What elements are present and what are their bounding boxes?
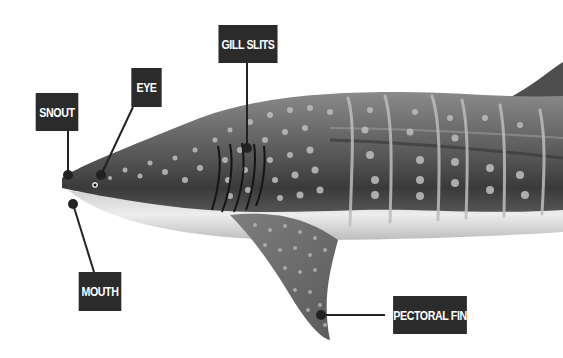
label-eye: EYE	[131, 68, 161, 107]
label-pectoral-fin: PECTORAL FIN	[393, 296, 467, 334]
label-gill-slits: GILL SLITS	[218, 25, 277, 63]
label-mouth: MOUTH	[79, 272, 122, 311]
pectoral-fin-shape	[230, 214, 338, 340]
label-snout: SNOUT	[36, 93, 79, 131]
